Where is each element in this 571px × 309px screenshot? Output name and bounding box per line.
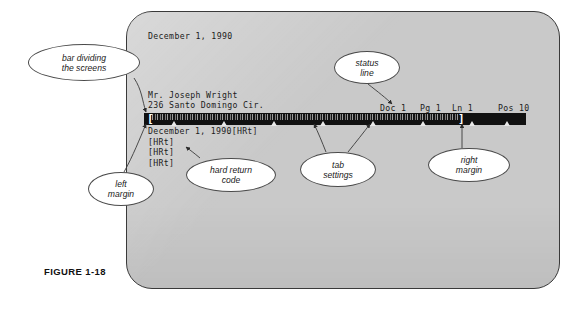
callout-line: hard return (210, 165, 252, 175)
callout-line: bar dividing (62, 53, 106, 63)
tab-stop-marker[interactable] (504, 121, 510, 126)
ruler-dividing-bar: [ ] (144, 113, 526, 125)
callout-line: tab (332, 160, 344, 170)
callout-line: code (222, 175, 241, 185)
callout-status-line: status line (334, 51, 400, 84)
ruler-texture (150, 114, 460, 120)
document-address-street: 236 Santo Domingo Cir. (148, 100, 264, 110)
callout-tab-settings: tab settings (300, 152, 376, 187)
left-margin-marker[interactable]: [ (147, 113, 151, 125)
callout-right-margin: right margin (428, 148, 510, 182)
document-date-line: December 1, 1990 (148, 31, 232, 41)
right-margin-marker[interactable]: ] (458, 113, 462, 125)
callout-line: line (360, 68, 373, 78)
tab-stop-marker[interactable] (320, 121, 326, 126)
tab-stop-marker[interactable] (370, 121, 376, 126)
tab-stop-marker[interactable] (420, 121, 426, 126)
callout-hard-return-code: hard return code (186, 158, 276, 192)
document-address-name: Mr. Joseph Wright (148, 90, 238, 100)
status-pg: Pg 1 (420, 103, 441, 113)
callout-line: the screens (62, 63, 106, 73)
callout-line: margin (456, 165, 482, 175)
reveal-code-line: December 1, 1990[HRt] (148, 126, 258, 137)
callout-bar-dividing-the-screens: bar dividing the screens (28, 44, 140, 81)
callout-line: right (461, 155, 478, 165)
callout-line: left (115, 179, 126, 189)
reveal-code-line: [HRt] (148, 147, 258, 158)
tab-stop-marker[interactable] (469, 121, 475, 126)
tab-stop-marker[interactable] (271, 121, 277, 126)
callout-line: margin (108, 189, 134, 199)
status-doc: Doc 1 (380, 103, 406, 113)
status-pos: Pos 10 (498, 103, 529, 113)
callout-left-margin: left margin (88, 172, 154, 206)
callout-line: settings (323, 170, 353, 180)
figure-caption: FIGURE 1-18 (44, 266, 106, 277)
reveal-code-line: [HRt] (148, 137, 258, 148)
callout-line: status (356, 58, 379, 68)
